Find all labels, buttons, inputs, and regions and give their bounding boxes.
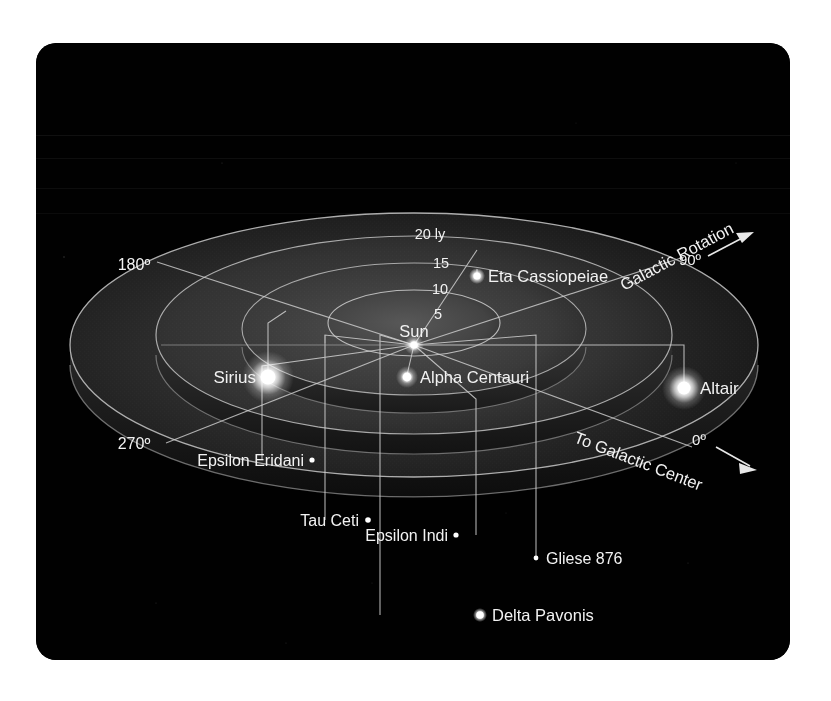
star-epsilon-eridani-core bbox=[309, 457, 314, 462]
star-gliese-876[interactable]: Gliese 876 bbox=[534, 550, 623, 567]
star-sun-core bbox=[410, 341, 417, 348]
star-epsilon-indi[interactable]: Epsilon Indi bbox=[365, 527, 458, 544]
star-eta-cassiopeiae[interactable]: Eta Cassiopeiae bbox=[469, 267, 608, 285]
star-sun-label: Sun bbox=[399, 322, 428, 340]
angle-label-180: 180º bbox=[118, 256, 151, 273]
ring-label-20ly: 20 ly bbox=[415, 226, 446, 242]
angle-label-270: 270º bbox=[118, 435, 151, 452]
star-epsilon-indi-core bbox=[453, 532, 458, 537]
star-map-diagram: 20 ly 15 10 5 180º 270º 90º 0º Ga bbox=[36, 43, 790, 660]
star-tau-ceti-core bbox=[365, 517, 371, 523]
star-gliese-876-label: Gliese 876 bbox=[546, 550, 623, 567]
star-alpha-centauri-label: Alpha Centauri bbox=[420, 368, 529, 386]
star-altair-core bbox=[678, 382, 691, 395]
star-alpha-centauri-core bbox=[403, 373, 412, 382]
star-epsilon-eridani-label: Epsilon Eridani bbox=[197, 452, 304, 469]
star-sirius-core bbox=[261, 370, 276, 385]
star-epsilon-eridani[interactable]: Epsilon Eridani bbox=[197, 452, 314, 469]
ring-label-10: 10 bbox=[432, 281, 448, 297]
star-altair-label: Altair bbox=[700, 379, 739, 398]
star-sirius-label: Sirius bbox=[213, 368, 256, 387]
star-tau-ceti-label: Tau Ceti bbox=[300, 512, 359, 529]
ring-label-15: 15 bbox=[433, 255, 449, 271]
star-delta-pavonis[interactable]: Delta Pavonis bbox=[473, 606, 594, 624]
star-delta-pavonis-label: Delta Pavonis bbox=[492, 606, 594, 624]
page-root: 20 ly 15 10 5 180º 270º 90º 0º Ga bbox=[0, 0, 831, 701]
star-eta-cassiopeiae-label: Eta Cassiopeiae bbox=[488, 267, 608, 285]
angle-label-0: 0º bbox=[692, 431, 706, 448]
star-delta-pavonis-core bbox=[476, 611, 484, 619]
star-epsilon-indi-label: Epsilon Indi bbox=[365, 527, 448, 544]
star-map-card: 20 ly 15 10 5 180º 270º 90º 0º Ga bbox=[36, 43, 790, 660]
ring-label-5: 5 bbox=[434, 306, 442, 322]
star-gliese-876-core bbox=[534, 556, 539, 561]
star-eta-cassiopeiae-core bbox=[473, 272, 480, 279]
